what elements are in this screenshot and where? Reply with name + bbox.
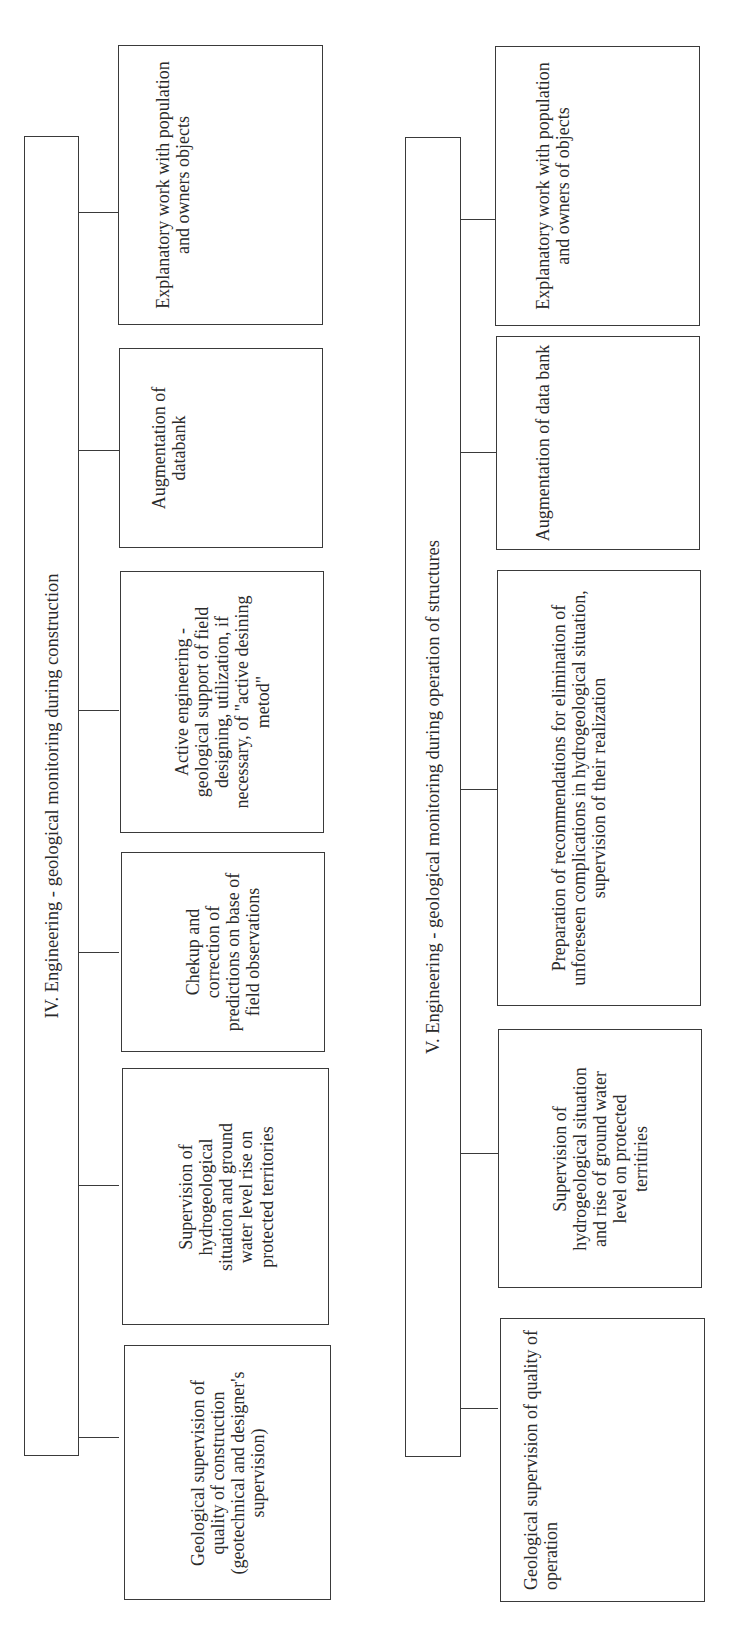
diagram-iv-title: IV. Engineering - geological monitoring …: [41, 573, 62, 1018]
diagram-iv-connector: [78, 1437, 119, 1438]
box-label: Preparation of recommendations for elimi…: [549, 578, 609, 998]
diagram-iv-connector: [78, 212, 119, 213]
box-label: Supervision of hydrogeological situation…: [175, 1107, 276, 1287]
box-label: Augmentation of data bank: [533, 343, 553, 543]
diagram-v-connector: [460, 789, 498, 790]
box-label: Active engineering - geological support …: [172, 595, 273, 810]
diagram-v-box-augmentation: Augmentation of data bank: [496, 336, 700, 550]
diagram-iv-trunk-line: [78, 212, 79, 1438]
diagram-v-box-geological-supervision: Geological supervision of quality of ope…: [500, 1318, 705, 1602]
diagram-v-connector: [460, 452, 498, 453]
box-label: Explanatory work with population and own…: [532, 56, 572, 316]
box-label: Explanatory work with population and own…: [152, 55, 192, 315]
diagram-v-connector: [460, 219, 498, 220]
diagram-v-trunk-line: [460, 219, 461, 1409]
diagram-iv-connector: [78, 952, 119, 953]
diagram-v-box-hydrogeological-supervision: Supervision of hydrogeological situation…: [498, 1029, 702, 1288]
diagram-v-box-explanatory-work: Explanatory work with population and own…: [495, 46, 700, 326]
diagram-iv-box-explanatory-work: Explanatory work with population and own…: [118, 45, 323, 325]
diagram-v-connector: [460, 1153, 498, 1154]
diagram-iv-box-hydrogeological-supervision: Supervision of hydrogeological situation…: [122, 1068, 329, 1325]
box-label: Augmentation of databank: [149, 353, 189, 543]
box-label: Geological supervision of quality of ope…: [520, 1330, 560, 1590]
diagram-iv-connector: [78, 450, 119, 451]
box-label: Geological supervision of quality of con…: [187, 1358, 268, 1588]
diagram-v-title-box: V. Engineering - geological monitoring d…: [405, 137, 461, 1457]
diagram-iv-title-box: IV. Engineering - geological monitoring …: [24, 136, 79, 1456]
box-label: Chekup and correction of predictions on …: [183, 872, 264, 1032]
diagram-iv-box-augmentation: Augmentation of databank: [119, 348, 323, 548]
box-label: Supervision of hydrogeological situation…: [550, 1066, 651, 1251]
diagram-v-title: V. Engineering - geological monitoring d…: [423, 540, 444, 1054]
diagram-iv-box-chekup: Chekup and correction of predictions on …: [121, 852, 325, 1052]
diagram-iv-box-geological-supervision: Geological supervision of quality of con…: [124, 1345, 331, 1600]
diagram-v-box-preparation-recommendations: Preparation of recommendations for elimi…: [497, 570, 701, 1006]
diagram-iv-connector: [78, 1185, 119, 1186]
diagram-iv-box-active-engineering: Active engineering - geological support …: [120, 571, 324, 833]
diagram-v-connector: [460, 1408, 498, 1409]
diagram-iv-connector: [78, 710, 119, 711]
